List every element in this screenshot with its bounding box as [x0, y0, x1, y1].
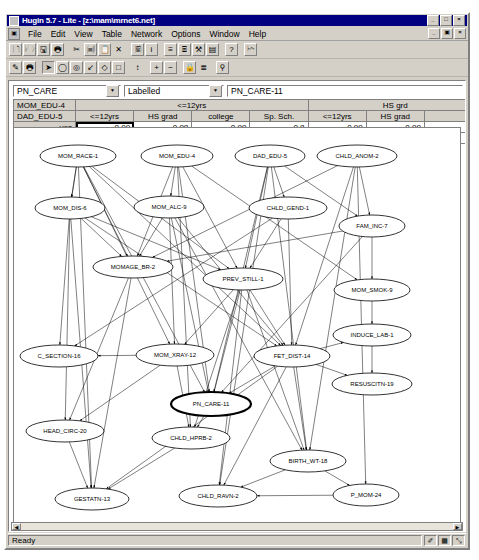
show-node-table-button[interactable]: ⌸: [178, 43, 191, 56]
delete-button[interactable]: ✕: [112, 43, 125, 56]
edit-mode-button[interactable]: ✎: [9, 61, 22, 74]
chevron-down-icon[interactable]: ▼: [209, 85, 222, 97]
graph-edge[interactable]: [221, 237, 362, 393]
graph-node[interactable]: CHLD_RAVN-2: [179, 485, 257, 507]
cpt-state-header[interactable]: college: [192, 111, 250, 122]
graph-edge[interactable]: [250, 290, 285, 345]
graph-edge[interactable]: [320, 342, 343, 348]
select-tool-button[interactable]: ➤: [42, 61, 55, 74]
graph-edge[interactable]: [183, 167, 237, 268]
menu-item-window[interactable]: Window: [205, 28, 243, 40]
graph-node[interactable]: MOM_ALC-9: [134, 196, 204, 218]
cut-button[interactable]: ✂: [70, 43, 83, 56]
cpt-state-header[interactable]: HS grad: [366, 111, 424, 122]
utility-node-button[interactable]: □: [112, 61, 125, 74]
graph-edge[interactable]: [171, 167, 176, 196]
graph-edge[interactable]: [108, 448, 175, 489]
save-file-button[interactable]: 🖫: [37, 43, 50, 56]
decision-node-button[interactable]: ◇: [98, 61, 111, 74]
menu-item-edit[interactable]: Edit: [47, 28, 70, 40]
node-info-button[interactable]: i: [145, 43, 158, 56]
cpt-state-header[interactable]: <=12yrs: [76, 111, 134, 122]
graph-node[interactable]: MOM_XRAY-12: [136, 344, 214, 366]
graph-node[interactable]: INDUCE_LAB-1: [333, 324, 411, 346]
graph-node[interactable]: MOMAGE_BR-2: [93, 256, 173, 278]
open-file-button[interactable]: 🗁: [23, 43, 36, 56]
graph-edge[interactable]: [60, 219, 69, 345]
monitor-windows-button[interactable]: ▤: [206, 43, 219, 56]
graph-node[interactable]: PN_CARE-11: [171, 392, 251, 416]
graph-edge[interactable]: [325, 471, 350, 486]
zoom-out-button[interactable]: −: [164, 61, 177, 74]
graph-node[interactable]: PREV_STILL-1: [203, 268, 283, 290]
network-properties-button[interactable]: 🖺: [131, 43, 144, 56]
help-button[interactable]: ?: [225, 43, 238, 56]
menu-item-options[interactable]: Options: [167, 28, 204, 40]
graph-edge[interactable]: [185, 290, 234, 345]
paste-button[interactable]: 📋: [98, 43, 111, 56]
graph-edge[interactable]: [247, 290, 304, 450]
graph-node[interactable]: FET_DIST-14: [254, 345, 330, 367]
magnify-button[interactable]: ⚲: [216, 61, 229, 74]
display-mode-dropdown[interactable]: Labelled ▼: [124, 85, 224, 97]
cpt-state-header[interactable]: Sp. Sch.: [250, 111, 308, 122]
show-tables-button[interactable]: ≡: [164, 43, 177, 56]
cpt-group-header[interactable]: HS grd: [308, 100, 466, 111]
node-name-field[interactable]: PN_CARE-11: [227, 85, 463, 97]
graph-node[interactable]: DAD_EDU-5: [235, 145, 305, 167]
discrete-chance-node-button[interactable]: ◯: [56, 61, 69, 74]
graph-node[interactable]: MOM_EDU-4: [141, 145, 213, 167]
compile-button[interactable]: ⚒: [192, 43, 205, 56]
align-button[interactable]: ↕: [131, 61, 144, 74]
graph-edge[interactable]: [192, 166, 358, 280]
lock-network-button[interactable]: 🔒: [183, 61, 196, 74]
print-button[interactable]: 🖶: [51, 43, 64, 56]
cpt-state-header[interactable]: HS grad: [134, 111, 192, 122]
hugin-icon[interactable]: [9, 16, 19, 26]
graph-node[interactable]: CHLD_ANOM-2: [317, 145, 397, 167]
graph-node[interactable]: CHLD_HPRB-2: [152, 427, 230, 449]
graph-edge[interactable]: [294, 367, 307, 450]
horizontal-scrollbar[interactable]: ◀ ▶: [11, 522, 463, 531]
copy-button[interactable]: 🗐: [84, 43, 97, 56]
list-view-button[interactable]: ≣: [197, 61, 210, 74]
graph-edge[interactable]: [316, 364, 347, 375]
menu-item-view[interactable]: View: [70, 28, 96, 40]
network-graph-canvas[interactable]: MOM_RACE-1MOM_EDU-4DAD_EDU-5CHLD_ANOM-2M…: [13, 127, 461, 527]
continuous-chance-node-button[interactable]: ◎: [70, 61, 83, 74]
graph-edge[interactable]: [72, 167, 77, 197]
graph-edge[interactable]: [169, 218, 174, 344]
graph-edge[interactable]: [81, 218, 122, 256]
new-file-button[interactable]: 🗋: [9, 43, 22, 56]
graph-edge[interactable]: [65, 219, 70, 420]
graph-node[interactable]: HEAD_CIRC-20: [26, 420, 104, 442]
graph-edge[interactable]: [257, 495, 333, 496]
link-tool-button[interactable]: ↙: [84, 61, 97, 74]
graph-node[interactable]: MOM_RACE-1: [40, 145, 116, 167]
graph-edge[interactable]: [241, 470, 285, 487]
graph-node[interactable]: RESUSCITN-19: [332, 373, 412, 395]
graph-node[interactable]: BIRTH_WT-18: [270, 450, 346, 472]
menu-item-help[interactable]: Help: [245, 28, 270, 40]
chevron-down-icon[interactable]: ▼: [106, 85, 119, 97]
graph-node[interactable]: FAM_INC-7: [339, 215, 405, 237]
run-propagate-button[interactable]: 🖶: [23, 61, 36, 74]
mdi-minimize-button[interactable]: _: [428, 28, 440, 39]
graph-node[interactable]: MOM_SMOK-9: [334, 279, 410, 301]
zoom-in-button[interactable]: +: [150, 61, 163, 74]
document-icon[interactable]: ▣: [8, 28, 20, 40]
graph-edge[interactable]: [245, 167, 267, 268]
graph-node[interactable]: GESTATN-13: [55, 488, 129, 510]
close-button[interactable]: ×: [453, 15, 465, 26]
mdi-close-button[interactable]: ×: [454, 28, 466, 39]
node-select-dropdown[interactable]: PN_CARE ▼: [13, 85, 121, 97]
cpt-group-header[interactable]: <=12yrs: [76, 100, 309, 111]
menu-item-network[interactable]: Network: [127, 28, 166, 40]
graph-node[interactable]: C_SECTION-16: [20, 345, 98, 367]
maximize-button[interactable]: □: [440, 15, 452, 26]
scroll-track[interactable]: [21, 523, 453, 530]
graph-edge[interactable]: [359, 167, 369, 215]
graph-node[interactable]: MOM_DIS-6: [35, 197, 105, 219]
graph-edge[interactable]: [274, 167, 284, 197]
graph-edge[interactable]: [140, 218, 163, 256]
